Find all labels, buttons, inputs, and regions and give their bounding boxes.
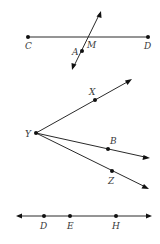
label-z: Z bbox=[107, 176, 115, 186]
label-d2: D bbox=[39, 221, 47, 231]
label-e: E bbox=[66, 221, 74, 231]
point-c bbox=[26, 35, 30, 39]
point-e bbox=[68, 214, 72, 218]
ray-yz bbox=[36, 133, 147, 188]
geometry-diagram: C D M A Y X B Z D E H bbox=[0, 0, 160, 244]
arrow-z-icon bbox=[142, 184, 150, 189]
label-x: X bbox=[88, 87, 96, 97]
ray-yx bbox=[36, 81, 129, 133]
arrow-right-icon bbox=[146, 214, 152, 219]
arrow-left-icon bbox=[16, 214, 22, 219]
label-y: Y bbox=[25, 129, 32, 139]
label-m: M bbox=[86, 40, 97, 50]
label-b: B bbox=[109, 136, 117, 146]
arrow-up-icon bbox=[97, 11, 102, 18]
ray-yb bbox=[36, 133, 147, 158]
point-b bbox=[106, 147, 110, 151]
arrow-x-icon bbox=[125, 79, 132, 85]
arrow-b-icon bbox=[143, 155, 151, 160]
point-y bbox=[34, 131, 38, 135]
label-d: D bbox=[143, 41, 151, 51]
arrow-down-icon bbox=[72, 63, 77, 70]
point-z bbox=[110, 169, 114, 173]
label-h: H bbox=[111, 221, 120, 231]
figure-rays-y: Y X B Z bbox=[25, 79, 150, 189]
label-a: A bbox=[71, 47, 79, 57]
figure-line-deh: D E H bbox=[16, 214, 152, 232]
point-h bbox=[114, 214, 118, 218]
point-x bbox=[93, 98, 97, 102]
label-c: C bbox=[25, 41, 32, 51]
point-d2 bbox=[42, 214, 46, 218]
point-d bbox=[146, 35, 150, 39]
figure-segment-cd: C D M A bbox=[25, 11, 151, 70]
point-a bbox=[80, 49, 84, 53]
